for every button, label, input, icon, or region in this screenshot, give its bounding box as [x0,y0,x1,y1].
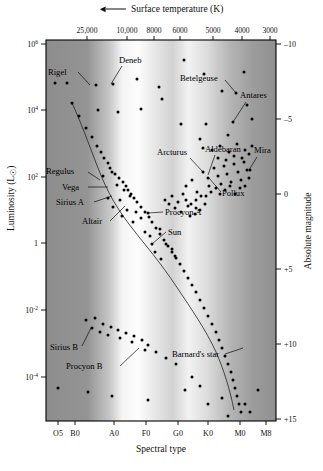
left-axis-tick-labels: 106104102110-210-4 [25,39,38,382]
top-axis-tick-label: 5000 [205,26,220,35]
star-point [147,399,150,402]
luminosity-tick-label: 1 [34,239,38,248]
star-point [114,173,117,176]
star-point [227,134,230,137]
star-point [123,189,126,192]
star-point [119,337,122,340]
star-point [160,258,163,261]
star-point [207,315,210,318]
top-axis-tick-label: 8000 [146,26,161,35]
star-point [140,217,143,220]
star-point [221,397,224,400]
star-point [224,355,227,358]
star-point [164,199,167,202]
star-point [112,206,115,209]
star-point [221,90,224,93]
star-point [116,184,119,187]
star-point [136,201,139,204]
star-point [225,159,228,162]
star-point [71,102,74,105]
star-point [135,211,138,214]
star-point [136,78,139,81]
star-point [211,323,214,326]
luminosity-tick-label: 10-4 [25,372,38,382]
star-label: Barnard's star [172,349,219,359]
top-axis-tick-label: 10,000 [117,26,138,35]
star-point [246,169,249,172]
spectral-type-label: G0 [173,429,183,438]
star-point [187,277,190,280]
star-point [221,347,224,350]
star-label: Procyon A [165,207,202,217]
star-label: Regulus [46,166,75,176]
star-point [119,199,122,202]
star-point [165,243,168,246]
star-point [205,123,208,126]
star-label: Sun [168,227,182,237]
star-point [179,263,182,266]
star-point [102,175,105,178]
star-point [151,221,154,224]
star-point [195,199,198,202]
star-point [191,376,194,379]
star-point [57,387,60,390]
star-point [154,251,157,254]
star-point [244,149,247,152]
star-label: Pollux [222,188,245,198]
star-point [233,163,236,166]
star-point [147,344,150,347]
star-point [215,331,218,334]
temperature-arrow-icon: ◄ [98,4,107,14]
star-point [175,363,178,366]
star-point [205,195,208,198]
star-point [191,179,194,182]
star-point [118,177,121,180]
star-point [91,136,94,139]
star-label: Procyon B [66,361,103,371]
star-point [199,299,202,302]
star-label: Mira [254,145,271,155]
star-point [109,167,112,170]
star-point [218,339,221,342]
star-point [232,379,235,382]
magnitude-tick-label: +10 [284,340,297,349]
star-label: Vega [62,182,79,192]
star-point [107,334,110,337]
star-point [103,157,106,160]
right-axis-ticks [276,44,281,419]
star-point [190,203,193,206]
star-point [144,349,147,352]
star-point [241,157,244,160]
top-axis-tick-label: 3000 [262,26,277,35]
star-point [226,173,229,176]
star-point [171,248,174,251]
star-point [85,127,88,130]
star-point [244,403,247,406]
star-point [230,371,233,374]
star-point [204,203,207,206]
star-point [131,341,134,344]
star-label: Deneb [119,55,141,65]
star-point [96,145,99,148]
star-label: Aldebaran [205,144,241,154]
bottom-axis-tick-labels: O5B0A0F0G0K0M0M8 [53,429,271,438]
star-point [227,363,230,366]
top-axis-tick-label: 6000 [172,26,187,35]
star-point [208,185,211,188]
star-label: Sirius A [56,197,85,207]
star-point [174,255,177,258]
star-point [168,203,171,206]
star-point [195,291,198,294]
star-point [200,195,203,198]
star-label: Rigel [48,67,67,77]
top-axis-tick-label: 25,000 [77,26,98,35]
spectral-type-label: B0 [70,429,79,438]
bottom-axis-title: Spectral type [136,444,186,454]
star-point [95,84,98,87]
star-point [183,59,186,62]
star-point [78,115,81,118]
star-point [107,162,110,165]
star-point [125,332,128,335]
star-point [207,403,210,406]
star-point [237,171,240,174]
